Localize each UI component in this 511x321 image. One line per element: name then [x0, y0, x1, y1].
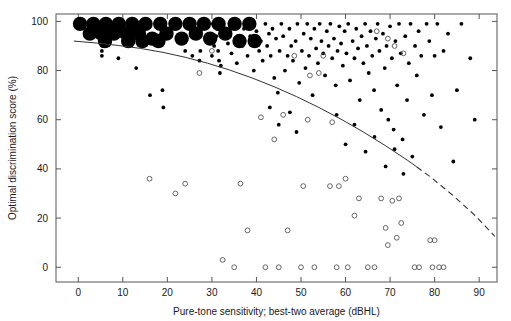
data-point-filled [402, 172, 406, 176]
data-point-filled [134, 66, 138, 70]
data-point-open [245, 228, 250, 233]
data-point-filled [252, 69, 256, 73]
data-point-open [316, 71, 321, 76]
data-point-filled [343, 29, 347, 33]
data-point-open [183, 181, 188, 186]
data-point-open [397, 196, 402, 201]
data-point-filled [271, 27, 275, 31]
data-point-filled [433, 54, 437, 58]
data-point-filled [312, 27, 316, 31]
data-point-open [232, 265, 237, 270]
data-point-filled [311, 93, 315, 97]
data-point-filled [392, 128, 396, 132]
data-point-open [372, 265, 377, 270]
data-point-open [292, 53, 297, 58]
data-point-filled [369, 29, 373, 33]
scatter-plot: 0102030405060708090020406080100Pure-tone… [0, 0, 511, 321]
data-point-open [272, 137, 277, 142]
x-tick-label: 80 [429, 287, 441, 298]
data-point-filled [294, 39, 298, 43]
data-point-filled [235, 61, 239, 65]
data-point-filled [341, 64, 345, 68]
data-point-filled [286, 54, 290, 58]
data-point-filled [427, 39, 431, 43]
data-point-filled [327, 44, 331, 48]
data-point-filled [386, 118, 390, 122]
data-point-open [210, 48, 215, 53]
data-point-filled [151, 34, 165, 48]
y-tick-label: 100 [31, 16, 48, 27]
y-tick-label: 20 [37, 213, 49, 224]
fit-curve-dashed [417, 167, 495, 236]
data-point-filled [148, 93, 152, 97]
data-point-filled [388, 24, 392, 28]
data-point-filled [325, 29, 329, 33]
data-point-filled [367, 71, 371, 75]
data-point-filled [237, 22, 241, 26]
plot-frame [56, 14, 497, 282]
data-point-filled [309, 37, 313, 41]
data-point-open [394, 235, 399, 240]
data-point-filled [190, 54, 194, 58]
data-point-filled [358, 98, 362, 102]
data-point-open [301, 184, 306, 189]
data-point-filled [376, 22, 380, 26]
fit-curve-solid [74, 41, 417, 167]
data-point-open [352, 213, 357, 218]
data-point-filled [291, 59, 295, 63]
data-point-filled [215, 27, 219, 31]
data-point-filled [320, 39, 324, 43]
data-point-filled [198, 49, 202, 53]
data-point-filled [379, 108, 383, 112]
data-point-open [281, 112, 286, 117]
data-point-filled [422, 113, 426, 117]
data-point-filled [304, 66, 308, 70]
data-point-filled [316, 61, 320, 65]
x-tick-label: 20 [162, 287, 174, 298]
data-point-filled [413, 44, 417, 48]
x-tick-label: 70 [385, 287, 397, 298]
data-point-filled [332, 37, 336, 41]
data-point-filled [397, 22, 401, 26]
data-point-filled [353, 56, 357, 60]
x-tick-label: 0 [75, 287, 81, 298]
data-point-open [336, 184, 341, 189]
data-point-filled [354, 27, 358, 31]
data-point-filled [468, 56, 472, 60]
data-point-filled [288, 27, 292, 31]
data-point-filled [278, 49, 282, 53]
data-point-filled [430, 93, 434, 97]
y-tick-label: 80 [37, 65, 49, 76]
data-point-open [430, 265, 435, 270]
data-point-filled [336, 49, 340, 53]
data-point-open [379, 196, 384, 201]
data-point-filled [302, 32, 306, 36]
data-point-open [365, 265, 370, 270]
data-point-filled [395, 83, 399, 87]
data-point-filled [455, 88, 459, 92]
data-point-filled [297, 81, 301, 85]
data-point-filled [246, 54, 250, 58]
data-point-filled [228, 22, 232, 26]
data-point-filled [403, 34, 407, 38]
data-point-filled [361, 61, 365, 65]
data-point-open [343, 176, 348, 181]
data-point-filled [272, 76, 276, 80]
data-point-open [390, 198, 395, 203]
data-point-filled [351, 39, 355, 43]
data-point-filled [226, 42, 230, 46]
data-point-filled [214, 34, 218, 38]
data-point-filled [374, 37, 378, 41]
data-point-filled [407, 61, 411, 65]
data-point-filled [439, 125, 443, 129]
data-point-filled [459, 22, 463, 26]
data-point-open [399, 221, 404, 226]
data-point-filled [242, 27, 246, 31]
data-point-filled [280, 22, 284, 26]
data-point-filled [183, 49, 187, 53]
data-point-filled [372, 88, 376, 92]
data-point-filled [329, 22, 333, 26]
data-point-filled [217, 59, 221, 63]
data-point-filled [323, 74, 327, 78]
data-point-filled [288, 110, 292, 114]
